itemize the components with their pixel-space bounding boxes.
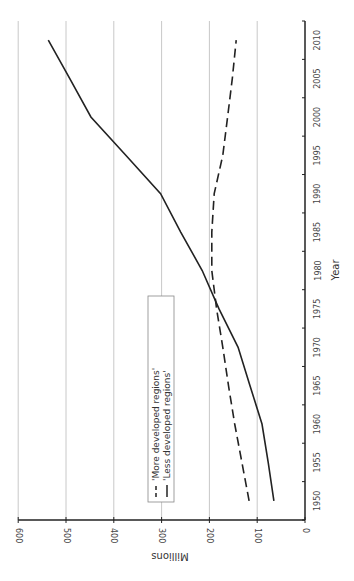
value-tick-label: 0	[301, 528, 310, 533]
legend-label: 'Less developed regions'	[162, 370, 172, 481]
year-tick-label: 1980	[314, 260, 323, 280]
line-chart: 0100200300400500600Millions1950195519601…	[0, 0, 354, 581]
legend-label: 'More developed regions'	[151, 368, 161, 481]
year-tick-label: 1955	[314, 452, 323, 472]
value-tick-label: 200	[205, 528, 214, 543]
series-more-developed	[212, 40, 249, 501]
year-tick-label: 2000	[314, 107, 323, 127]
year-tick-label: 2005	[314, 68, 323, 88]
value-tick-label: 100	[253, 528, 262, 543]
year-tick-label: 1990	[314, 184, 323, 204]
value-tick-label: 400	[109, 528, 118, 543]
year-tick-label: 1965	[314, 375, 323, 395]
y-axis-label: Millions	[151, 551, 188, 562]
value-tick-label: 300	[157, 528, 166, 543]
year-tick-label: 1950	[314, 491, 323, 511]
year-tick-label: 1985	[314, 222, 323, 242]
x-axis-label: Year	[330, 259, 341, 282]
year-tick-label: 1970	[314, 337, 323, 357]
value-tick-label: 600	[14, 528, 23, 543]
value-tick-label: 500	[62, 528, 71, 543]
year-tick-label: 1960	[314, 414, 323, 434]
year-tick-label: 1995	[314, 145, 323, 165]
year-tick-label: 1975	[314, 299, 323, 319]
year-tick-label: 2010	[314, 30, 323, 50]
